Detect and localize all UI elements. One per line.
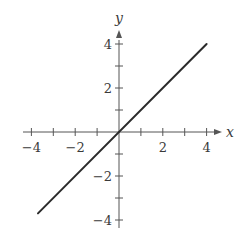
y-axis-label: y [114,10,124,26]
data-series [38,44,207,213]
coordinate-plane: xy −4−22442−2−4 [0,0,248,243]
x-axis-label: x [226,124,234,140]
y-tick-label: −4 [93,213,112,228]
x-tick-label: −2 [66,140,85,155]
x-tick-label: 2 [159,140,167,155]
series-line [38,44,207,213]
x-tick-label: 4 [202,140,210,155]
y-tick-label: 2 [104,81,112,96]
y-tick-label: −2 [93,169,112,184]
y-axis-arrow-icon [116,30,122,38]
y-tick-label: 4 [104,37,112,52]
x-tick-label: −4 [22,140,41,155]
x-axis-arrow-icon [214,129,222,135]
